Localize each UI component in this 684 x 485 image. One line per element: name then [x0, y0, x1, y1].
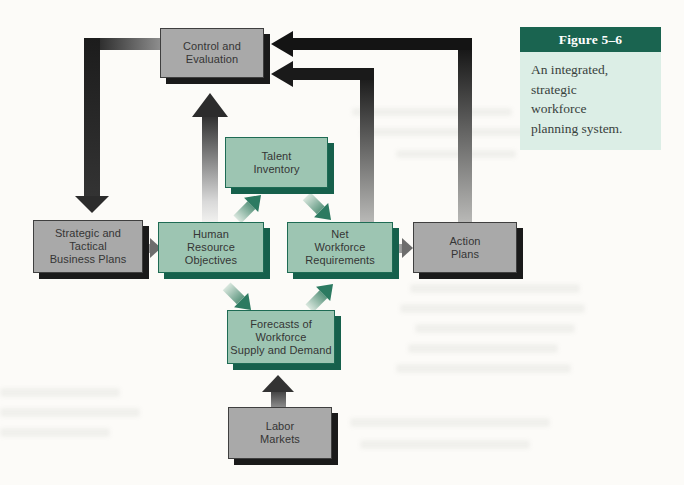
page-texture: [0, 388, 120, 397]
box-human-resource-objectives: Human Resource Objectives: [158, 222, 264, 273]
figure-caption-description: An integrated, strategic workforce plann…: [520, 52, 661, 150]
box-net-workforce-requirements: Net Workforce Requirements: [287, 222, 393, 273]
arrowhead-down-icon: [75, 196, 109, 213]
page-texture: [350, 418, 550, 427]
page-texture: [396, 150, 516, 158]
arrow-hro-to-control-shaft: [202, 116, 218, 223]
arrow-labor-to-forecasts-shaft: [271, 390, 286, 408]
arrow-nwr-to-control-vertical: [360, 68, 374, 222]
page-texture: [360, 440, 530, 449]
book-page-figure: Control and Evaluation Strategic and Tac…: [0, 0, 684, 485]
arrowhead-left-icon: [271, 61, 293, 87]
arrowhead-up-icon: [192, 93, 228, 117]
figure-caption: Figure 5–6 An integrated, strategic work…: [520, 27, 661, 150]
box-control-and-evaluation: Control and Evaluation: [160, 28, 264, 78]
box-strategic-tactical-business-plans: Strategic and Tactical Business Plans: [33, 220, 143, 273]
page-texture: [410, 284, 580, 293]
page-texture: [396, 364, 571, 373]
page-texture: [408, 344, 558, 353]
box-talent-inventory: Talent Inventory: [225, 137, 328, 188]
arrow-control-to-plans-vertical: [84, 38, 100, 196]
arrowhead-up-icon: [262, 375, 294, 392]
box-forecasts-supply-demand: Forecasts of Workforce Supply and Demand: [227, 310, 335, 364]
page-texture: [415, 324, 575, 333]
arrow-nwr-to-control-horizontal: [292, 68, 374, 80]
page-texture: [360, 128, 540, 136]
arrow-action-to-control-vertical: [458, 38, 472, 222]
page-texture: [0, 428, 110, 437]
arrow-hro-to-talent: [230, 188, 268, 226]
arrowhead-right-icon: [402, 238, 413, 258]
page-texture: [400, 304, 585, 313]
box-action-plans: Action Plans: [413, 222, 517, 273]
page-texture: [352, 108, 512, 116]
figure-caption-title: Figure 5–6: [520, 27, 661, 52]
page-texture: [0, 408, 140, 417]
box-labor-markets: Labor Markets: [228, 407, 332, 459]
arrow-action-to-control-horizontal: [292, 38, 472, 50]
arrowhead-left-icon: [271, 31, 293, 57]
